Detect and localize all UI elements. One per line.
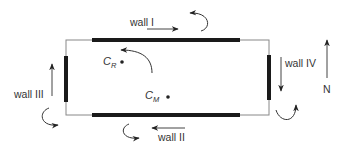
center-rigidity-dot xyxy=(120,60,124,64)
center-mass-dot xyxy=(166,95,170,99)
diagram-canvas: wall I wall II wall III wall IV N CR CM xyxy=(0,0,344,150)
north-label: N xyxy=(323,84,331,95)
center-mass-symbol: C xyxy=(145,89,153,101)
corner-rotation-sw-icon xyxy=(42,108,58,125)
wall-iv-label: wall IV xyxy=(285,58,316,69)
corner-rotation-s-icon xyxy=(123,124,139,138)
corner-rotation-se-icon xyxy=(276,105,296,120)
center-rigidity-symbol: C xyxy=(103,55,111,67)
floor-outline xyxy=(66,40,269,115)
rotation-arc-icon xyxy=(121,50,152,73)
wall-i-label: wall I xyxy=(130,17,154,28)
wall-iii-label: wall III xyxy=(14,89,44,100)
center-mass-subscript: M xyxy=(153,95,159,104)
floor-plan-svg xyxy=(0,0,344,150)
center-mass-label: CM xyxy=(145,90,159,104)
corner-rotation-ne-icon xyxy=(190,13,208,31)
wall-ii-label: wall II xyxy=(158,132,185,143)
center-rigidity-subscript: R xyxy=(111,61,116,70)
center-rigidity-label: CR xyxy=(103,56,116,70)
